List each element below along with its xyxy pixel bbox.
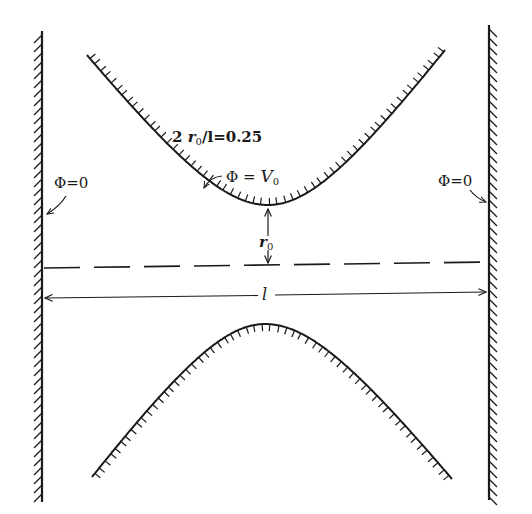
right-wall-hatching <box>489 29 497 505</box>
length-arrow-left <box>45 296 258 299</box>
gap-label: r0 <box>259 233 273 252</box>
right-wall-leader-arrow <box>470 190 486 202</box>
electrostatic-lens-diagram: r0 l 2 r0/l=0.25 Φ = V0 Φ=0 Φ=0 <box>0 0 532 514</box>
lower-electrode-hatching <box>95 324 449 480</box>
left-wall-potential-label: Φ=0 <box>47 174 88 214</box>
lower-electrode <box>92 324 452 480</box>
length-arrow-right <box>275 292 486 295</box>
length-dimension: l <box>45 285 486 304</box>
lower-electrode-curve <box>92 324 452 479</box>
right-wall-phi-text: Φ=0 <box>438 172 472 190</box>
gap-dimension: r0 <box>259 209 273 263</box>
potential-v0-text: Φ = V0 <box>226 166 279 187</box>
left-wall-phi-text: Φ=0 <box>54 174 88 192</box>
left-wall-hatching <box>34 35 42 502</box>
right-wall-electrode <box>489 25 497 505</box>
right-wall-potential-label: Φ=0 <box>438 172 486 202</box>
symmetry-axis-dashed-line <box>44 262 487 268</box>
left-wall-leader-arrow <box>47 196 66 214</box>
length-label: l <box>262 285 267 304</box>
left-wall-electrode <box>34 31 42 502</box>
ratio-label: 2 r0/l=0.25 <box>172 128 262 147</box>
